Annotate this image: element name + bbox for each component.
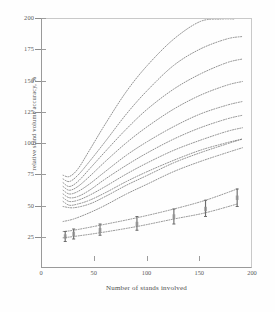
y-tick-mark-inner — [41, 237, 46, 238]
x-axis-title: Number of stands involved — [41, 284, 252, 292]
data-curve — [63, 82, 242, 191]
y-tick-label: 150 — [24, 77, 34, 84]
data-curve — [63, 102, 242, 195]
data-curve — [63, 128, 242, 202]
x-tick-label: 150 — [194, 269, 204, 276]
x-tick-mark-inner — [199, 256, 200, 261]
data-curve — [63, 37, 242, 182]
y-tick-mark-inner — [41, 174, 46, 175]
data-curve — [63, 148, 242, 222]
y-axis-title: relative stand volume accuracy, % — [30, 39, 37, 209]
x-tick-mark-inner — [147, 256, 148, 261]
x-tick-mark-inner — [94, 256, 95, 261]
curves-layer — [42, 19, 252, 268]
y-tick-mark-inner — [41, 49, 46, 50]
error-bar-marker — [135, 217, 138, 231]
x-tick-label: 100 — [142, 269, 152, 276]
x-tick-label: 50 — [91, 269, 97, 276]
error-bar-marker — [172, 209, 175, 224]
y-tick-label: 100 — [24, 139, 34, 146]
y-tick-mark-inner — [41, 206, 46, 207]
error-bar-marker — [64, 232, 67, 242]
y-tick-mark-inner — [41, 18, 46, 19]
chart-figure: relative stand volume accuracy, % 255075… — [0, 0, 275, 312]
data-curve — [63, 204, 237, 238]
plot-area — [41, 18, 252, 268]
y-tick-label: 125 — [24, 108, 34, 115]
y-tick-mark-inner — [41, 112, 46, 113]
x-tick-label: 0 — [39, 269, 42, 276]
y-tick-label: 200 — [24, 14, 34, 21]
y-tick-mark-inner — [41, 143, 46, 144]
error-bar-marker — [72, 229, 75, 239]
y-tick-label: 175 — [24, 45, 34, 52]
y-tick-label: 75 — [27, 170, 34, 177]
data-curve — [63, 19, 234, 177]
y-tick-label: 50 — [27, 202, 34, 209]
y-tick-mark-inner — [41, 81, 46, 82]
x-tick-label: 200 — [247, 269, 257, 276]
error-bar-marker — [204, 200, 207, 216]
y-tick-label: 25 — [27, 233, 34, 240]
